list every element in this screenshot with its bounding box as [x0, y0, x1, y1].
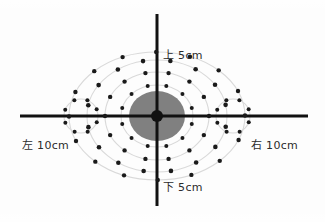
- dot-ring-2: [187, 148, 191, 152]
- dot-left-satellite: [86, 130, 90, 134]
- dot-ring-4: [216, 68, 220, 72]
- dot-ring-4: [92, 69, 96, 73]
- label-up: 上 5cm: [163, 46, 203, 62]
- dot-ring-2: [166, 157, 170, 161]
- dot-ring-3: [86, 125, 91, 130]
- dot-ring-3: [116, 160, 121, 165]
- dot-ring-3: [96, 83, 101, 88]
- dot-left-satellite: [95, 107, 99, 111]
- dot-ring-4: [218, 159, 222, 163]
- dot-ring-1: [164, 144, 168, 148]
- dot-ring-1: [180, 92, 184, 96]
- dot-ring-2: [103, 114, 107, 118]
- dot-left-satellite: [95, 120, 99, 124]
- label-right: 右 10cm: [251, 136, 298, 152]
- dot-ring-2: [207, 114, 211, 118]
- diagram-canvas: 上 5cm 下 5cm 左 10cm 右 10cm: [0, 0, 325, 222]
- dot-ring-2: [202, 95, 206, 99]
- dot-ring-3: [116, 67, 121, 72]
- dot-ring-3: [194, 160, 199, 165]
- dot-ring-4: [189, 173, 193, 177]
- center-dot: [151, 110, 163, 122]
- dot-ring-2: [122, 79, 126, 83]
- dot-ring-4: [243, 113, 247, 117]
- dot-ring-2: [166, 71, 170, 75]
- dot-left-satellite: [72, 98, 76, 102]
- dot-ring-2: [108, 133, 112, 137]
- dot-ring-1: [190, 122, 194, 126]
- label-left: 左 10cm: [22, 136, 69, 152]
- dot-ring-3: [141, 59, 146, 64]
- dot-ring-1: [120, 106, 124, 110]
- dot-right-satellite: [225, 130, 229, 134]
- dot-ring-2: [108, 95, 112, 99]
- dot-left-satellite: [63, 121, 67, 125]
- dot-ring-1: [180, 136, 184, 140]
- dot-ring-4: [236, 138, 240, 142]
- dot-right-satellite: [237, 98, 241, 102]
- dot-ring-4: [154, 50, 158, 54]
- dot-ring-4: [156, 178, 160, 182]
- label-down: 下 5cm: [163, 178, 203, 194]
- dot-ring-3: [169, 169, 174, 174]
- dot-ring-3: [213, 145, 218, 150]
- dot-ring-4: [236, 89, 240, 93]
- dot-ring-1: [120, 122, 124, 126]
- dot-ring-3: [213, 82, 218, 87]
- dot-ring-2: [187, 79, 191, 83]
- dot-ring-3: [97, 145, 102, 150]
- dot-ring-1: [130, 136, 134, 140]
- dot-left-satellite: [73, 130, 77, 134]
- dot-ring-1: [164, 84, 168, 88]
- dot-ring-4: [74, 139, 78, 143]
- dot-ring-4: [122, 173, 126, 177]
- dot-right-satellite: [238, 130, 242, 134]
- dot-ring-1: [190, 106, 194, 110]
- dot-left-satellite: [85, 98, 89, 102]
- dot-ring-1: [146, 144, 150, 148]
- dot-right-satellite: [247, 107, 251, 111]
- dot-ring-4: [67, 114, 71, 118]
- dot-ring-4: [93, 159, 97, 163]
- center-marker: [151, 110, 163, 122]
- dot-ring-3: [223, 124, 228, 129]
- dot-ring-2: [122, 148, 126, 152]
- dot-ring-4: [120, 55, 124, 59]
- dot-right-satellite: [215, 108, 219, 112]
- dot-right-satellite: [247, 120, 251, 124]
- dot-right-satellite: [224, 98, 228, 102]
- dot-ring-2: [202, 133, 206, 137]
- dot-ring-3: [193, 67, 198, 72]
- dot-ring-1: [130, 92, 134, 96]
- dot-ring-3: [141, 169, 146, 174]
- dot-ring-2: [143, 157, 147, 161]
- dot-ring-3: [86, 103, 91, 108]
- dot-ring-2: [143, 71, 147, 75]
- dot-left-satellite: [63, 108, 67, 112]
- dot-ring-4: [73, 90, 77, 94]
- dot-ring-1: [146, 84, 150, 88]
- dot-ring-3: [223, 103, 228, 108]
- dot-right-satellite: [215, 121, 219, 125]
